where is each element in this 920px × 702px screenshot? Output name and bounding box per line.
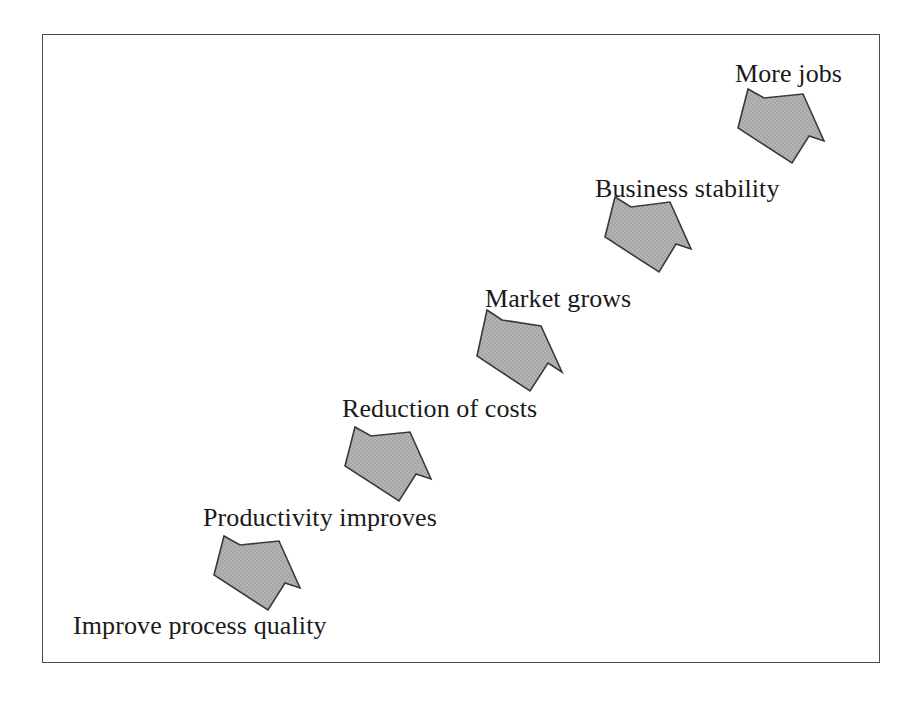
- arrows-layer: [0, 0, 920, 702]
- step-label-reduction-of-costs: Reduction of costs: [342, 396, 537, 422]
- arrow-productivity-improves: [345, 427, 431, 501]
- step-label-improve-process-quality: Improve process quality: [73, 613, 327, 639]
- arrow-market-grows: [605, 197, 691, 272]
- step-label-business-stability: Business stability: [595, 176, 780, 202]
- step-label-more-jobs: More jobs: [735, 61, 842, 87]
- step-label-market-grows: Market grows: [485, 286, 631, 312]
- step-label-productivity-improves: Productivity improves: [203, 505, 437, 531]
- arrow-improve-process-quality: [214, 536, 300, 610]
- diagram-canvas: Improve process quality Productivity imp…: [0, 0, 920, 702]
- arrow-reduction-of-costs: [477, 310, 562, 391]
- arrow-business-stability: [738, 89, 824, 163]
